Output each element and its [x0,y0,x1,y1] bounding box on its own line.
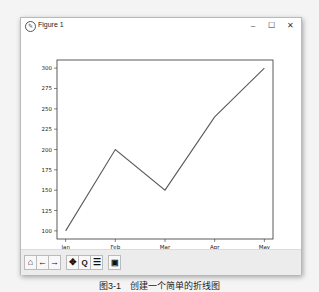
navigation-toolbar: ⌂ ← → ✥ Q ☰ ▣ [21,249,301,275]
save-button[interactable]: ▣ [108,255,121,270]
minimize-button[interactable]: – [246,20,260,32]
y-tick-label: 225 [42,126,53,132]
y-tick-label: 125 [42,208,53,214]
configure-subplots-button[interactable]: ☰ [90,255,103,270]
y-tick-label: 175 [42,167,53,173]
line-chart: 100125150175200225250275300JanFebMarAprM… [21,36,301,249]
figure-caption: 图3-1 创建一个简单的折线图 [0,279,319,292]
forward-button[interactable]: → [48,255,61,270]
matplotlib-icon: ✎ [25,21,36,32]
figure-window: ✎ Figure 1 – ☐ ✕ 10012515017520022525027… [20,17,302,275]
close-button[interactable]: ✕ [283,20,297,32]
y-tick-label: 300 [42,65,53,71]
title-bar[interactable]: ✎ Figure 1 – ☐ ✕ [21,18,301,36]
window-title: Figure 1 [38,21,64,28]
y-tick-label: 250 [42,106,53,112]
y-tick-label: 275 [42,85,53,91]
zoom-icon: Q [81,258,87,267]
y-tick-label: 150 [42,187,53,193]
y-tick-label: 200 [42,147,53,153]
axes-frame [57,60,273,239]
maximize-button[interactable]: ☐ [264,20,278,32]
plot-area[interactable]: 100125150175200225250275300JanFebMarAprM… [21,36,301,249]
y-tick-label: 100 [42,228,53,234]
save-icon: ▣ [111,258,119,267]
